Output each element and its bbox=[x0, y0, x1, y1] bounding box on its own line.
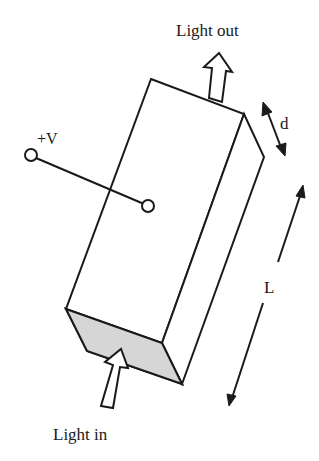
thickness-arrowhead-bottom-icon bbox=[276, 143, 286, 156]
light-out-label: Light out bbox=[176, 21, 239, 40]
length-dimension-line-lower bbox=[232, 303, 263, 398]
electrode-contact-icon bbox=[142, 200, 154, 212]
length-dimension-line-upper bbox=[278, 193, 301, 262]
voltage-terminal-icon bbox=[25, 149, 37, 161]
thickness-label: d bbox=[280, 114, 289, 133]
diagram-canvas: Light out Light in +V d L bbox=[0, 0, 319, 461]
length-arrowhead-top-icon bbox=[296, 185, 305, 198]
thickness-arrowhead-top-icon bbox=[262, 102, 272, 116]
light-in-label: Light in bbox=[53, 425, 108, 444]
length-label: L bbox=[264, 278, 274, 297]
light-out-arrow bbox=[204, 53, 232, 102]
voltage-label: +V bbox=[37, 130, 58, 147]
length-arrowhead-bottom-icon bbox=[227, 394, 236, 406]
